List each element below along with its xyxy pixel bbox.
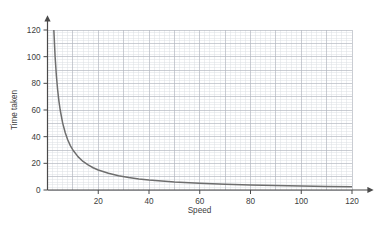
x-tick-label-80: 80: [246, 197, 256, 206]
y-tick-label-20: 20: [31, 159, 41, 168]
y-tick-label-40: 40: [31, 133, 41, 142]
y-axis-title: Time taken: [10, 89, 19, 130]
y-tick-label-80: 80: [31, 79, 41, 88]
x-tick-label-60: 60: [195, 197, 205, 206]
x-axis-title: Speed: [188, 206, 212, 215]
chart-figure: 20406080100120 020406080100120 Speed Tim…: [0, 0, 384, 226]
y-tick-label-60: 60: [31, 106, 41, 115]
x-tick-label-100: 100: [294, 197, 308, 206]
x-tick-label-120: 120: [345, 197, 359, 206]
y-tick-label-100: 100: [27, 53, 41, 62]
y-axis-tick-labels: 020406080100120: [27, 26, 41, 195]
y-tick-label-0: 0: [36, 186, 41, 195]
x-axis-tick-labels: 20406080100120: [94, 197, 360, 206]
x-tick-label-40: 40: [144, 197, 154, 206]
inverse-proportion-graph: 20406080100120 020406080100120 Speed Tim…: [0, 0, 384, 226]
x-tick-label-20: 20: [94, 197, 104, 206]
y-tick-label-120: 120: [27, 26, 41, 35]
